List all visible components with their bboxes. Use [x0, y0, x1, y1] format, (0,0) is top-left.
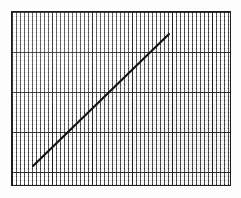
graph-paper-plot-area — [11, 11, 231, 186]
figure-container — [0, 0, 241, 198]
paper-texture-overlay — [12, 12, 230, 185]
